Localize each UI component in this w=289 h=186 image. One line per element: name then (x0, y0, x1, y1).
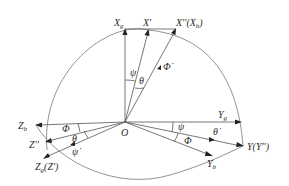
label-xg: Xg (113, 17, 124, 30)
label-theta-left: θ (72, 133, 77, 144)
label-psi-right: ψ (178, 121, 185, 132)
label-origin: O (121, 127, 128, 138)
arrow-zb-icon (35, 123, 42, 128)
label-y2: Y(Y'') (247, 141, 270, 153)
label-phi-right: Φ (184, 135, 192, 146)
label-theta-top: θ (139, 75, 144, 86)
label-psi-top: ψ (130, 67, 137, 78)
label-x1: X' (142, 17, 152, 28)
arrow-yg-icon (235, 120, 242, 125)
label-x2: X''(Xb) (175, 17, 203, 30)
arrow-phidot-icon (157, 65, 161, 70)
label-theta-dot: θ̇ (213, 126, 221, 137)
coordinate-frame-diagram: Xg X' X''(Xb) ψ θ Φ̇ O Zb Z'' Zg(Z') Φ θ… (0, 0, 289, 186)
label-zg: Zg(Z') (35, 161, 59, 174)
label-yb: Yb (207, 158, 217, 171)
arrow-yb-icon (205, 151, 213, 156)
label-psi-dot: ψ̇ (72, 146, 81, 157)
label-z2: Z'' (29, 139, 40, 150)
label-zb: Zb (18, 120, 28, 133)
arrow-zg-icon (43, 153, 50, 159)
arrowheads (35, 28, 244, 159)
label-yg: Yg (218, 109, 228, 122)
label-phi-left: Φ (62, 123, 70, 134)
arrow-thetadot-icon (209, 137, 215, 142)
label-phi-dot: Φ̇ (163, 61, 174, 72)
